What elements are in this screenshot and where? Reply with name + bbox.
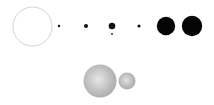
disc-large-2-icon	[182, 16, 202, 36]
dot-4-icon	[137, 24, 140, 27]
dot-2-icon	[84, 24, 88, 28]
outline-circle-icon	[13, 7, 52, 46]
size-comparison-diagram	[0, 0, 214, 105]
gray-sphere-large-icon	[84, 65, 117, 98]
disc-large-1-icon	[157, 17, 175, 35]
dot-3-icon	[109, 23, 116, 30]
top-row	[13, 7, 202, 46]
dot-1-icon	[58, 25, 60, 27]
gray-sphere-small-icon	[119, 73, 136, 90]
dot-3-satellite-icon	[111, 33, 113, 35]
bottom-row	[84, 65, 136, 98]
